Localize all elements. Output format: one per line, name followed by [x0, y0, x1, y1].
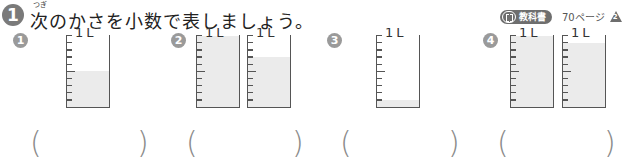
scale-tick — [248, 78, 253, 79]
measuring-beaker: 1L — [66, 35, 110, 108]
paren-open: ( — [340, 128, 352, 158]
scale-tick — [377, 49, 382, 50]
scale-tick — [197, 35, 202, 36]
paren-close: ) — [292, 128, 304, 158]
scale-tick — [67, 92, 72, 93]
measuring-beaker: 1L — [196, 35, 240, 108]
scale-tick — [377, 64, 382, 65]
scale-tick — [67, 99, 72, 100]
scale-tick — [563, 56, 568, 57]
scale-tick — [197, 71, 205, 72]
scale-tick — [511, 99, 516, 100]
question-4-number-icon: 4 — [483, 33, 498, 48]
scale-tick — [377, 56, 382, 57]
textbook-badge: 教科書 — [500, 10, 552, 24]
scale-tick — [67, 64, 72, 65]
scale-tick — [248, 92, 253, 93]
scale-tick — [197, 78, 202, 79]
scale-tick — [563, 85, 568, 86]
scale-tick — [67, 35, 72, 36]
page-reference: 70ページ — [562, 9, 605, 24]
paren-close: ) — [137, 128, 149, 158]
scale-tick — [377, 99, 382, 100]
scale-tick — [67, 85, 72, 86]
scale-tick — [563, 42, 568, 43]
scale-tick — [511, 71, 519, 72]
scale-tick — [563, 92, 568, 93]
paren-close: ) — [604, 128, 616, 158]
beaker-capacity-label: 1L — [571, 25, 593, 40]
scale-tick — [511, 78, 516, 79]
section-marker: 2 — [613, 13, 618, 21]
beaker-capacity-label: 1L — [75, 25, 97, 40]
scale-tick — [248, 85, 253, 86]
scale-tick — [197, 42, 202, 43]
scale-tick — [197, 85, 202, 86]
liquid-fill — [377, 100, 419, 107]
scale-tick — [248, 35, 253, 36]
paren-open: ( — [497, 128, 509, 158]
scale-tick — [511, 92, 516, 93]
textbook-label: 教科書 — [519, 10, 546, 23]
beaker-capacity-label: 1L — [205, 25, 227, 40]
scale-tick — [248, 99, 253, 100]
paren-open: ( — [30, 128, 42, 158]
question-1-number-icon: 1 — [13, 33, 28, 48]
liquid-fill — [563, 43, 605, 107]
textbook-reference: 教科書 70ページ 2 — [500, 9, 622, 24]
paren-close: ) — [448, 128, 460, 158]
scale-tick — [197, 99, 202, 100]
problem-number-badge: 1 — [2, 4, 24, 26]
beaker-capacity-label: 1L — [519, 25, 541, 40]
scale-tick — [67, 71, 75, 72]
question-2-number-icon: 2 — [171, 33, 186, 48]
scale-tick — [67, 78, 72, 79]
scale-tick — [563, 99, 568, 100]
scale-tick — [67, 42, 72, 43]
scale-tick — [67, 56, 72, 57]
scale-tick — [377, 78, 382, 79]
beaker-capacity-label: 1L — [256, 25, 278, 40]
scale-tick — [67, 49, 72, 50]
scale-tick — [563, 71, 571, 72]
scale-tick — [248, 56, 253, 57]
scale-tick — [248, 42, 253, 43]
scale-tick — [197, 64, 202, 65]
liquid-fill — [67, 71, 109, 107]
liquid-fill — [248, 57, 290, 107]
scale-tick — [511, 42, 516, 43]
measuring-beaker: 1L — [247, 35, 291, 108]
question-3-number-icon: 3 — [327, 33, 342, 48]
scale-tick — [511, 64, 516, 65]
measuring-beaker: 1L — [376, 35, 420, 108]
scale-tick — [563, 78, 568, 79]
scale-tick — [511, 56, 516, 57]
scale-tick — [563, 64, 568, 65]
scale-tick — [377, 85, 382, 86]
scale-tick — [563, 35, 568, 36]
scale-tick — [248, 49, 253, 50]
scale-tick — [563, 49, 568, 50]
book-icon — [502, 11, 516, 23]
scale-tick — [377, 71, 385, 72]
scale-tick — [248, 71, 256, 72]
scale-tick — [197, 92, 202, 93]
scale-tick — [197, 56, 202, 57]
scale-tick — [377, 42, 382, 43]
scale-tick — [248, 64, 253, 65]
scale-tick — [197, 49, 202, 50]
triangle-marker-icon: 2 — [610, 11, 622, 22]
measuring-beaker: 1L — [510, 35, 554, 108]
scale-tick — [377, 92, 382, 93]
scale-tick — [511, 85, 516, 86]
scale-tick — [511, 49, 516, 50]
scale-tick — [377, 35, 382, 36]
beaker-capacity-label: 1L — [385, 25, 407, 40]
measuring-beaker: 1L — [562, 35, 606, 108]
paren-open: ( — [186, 128, 198, 158]
scale-tick — [511, 35, 516, 36]
